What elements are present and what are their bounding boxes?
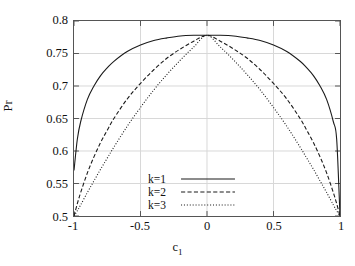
x-tick-label: 1 — [311, 220, 355, 233]
chart-legend: k=1k=2k=3 — [148, 172, 236, 211]
legend-entry: k=2 — [148, 185, 236, 198]
y-tick-label: 0.75 — [0, 47, 68, 60]
x-tick-label: 0.5 — [244, 220, 304, 233]
chart-figure: Pr 0.50.550.60.650.70.750.8 -1-0.500.51 … — [0, 0, 355, 266]
legend-label: k=3 — [148, 199, 180, 211]
legend-line-sample — [180, 187, 236, 197]
y-tick-label: 0.55 — [0, 178, 68, 191]
x-tick-label: -1 — [43, 220, 103, 233]
x-tick-label: -0.5 — [110, 220, 170, 233]
y-tick-label: 0.8 — [0, 14, 68, 27]
legend-entry: k=3 — [148, 198, 236, 211]
x-axis-label-subscript: 1 — [178, 247, 183, 257]
legend-label: k=1 — [148, 173, 180, 185]
chart-title — [0, 1, 355, 8]
y-tick-label: 0.6 — [0, 145, 68, 158]
legend-entry: k=1 — [148, 172, 236, 185]
legend-line-sample — [180, 200, 236, 210]
legend-label: k=2 — [148, 186, 180, 198]
x-axis-label: c1 — [0, 240, 355, 257]
x-tick-label: 0 — [177, 220, 237, 233]
legend-line-sample — [180, 174, 236, 184]
y-axis-label: Pr — [1, 100, 16, 111]
y-tick-label: 0.7 — [0, 79, 68, 92]
y-tick-label: 0.65 — [0, 112, 68, 125]
